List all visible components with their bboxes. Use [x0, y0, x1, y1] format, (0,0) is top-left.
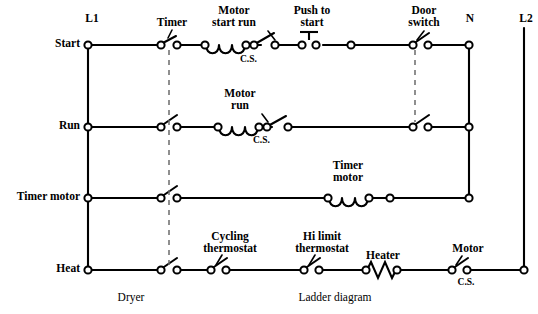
- motor-run-coil: [214, 123, 262, 135]
- caption-ladder-diagram: Ladder diagram: [298, 292, 371, 304]
- coil-terminal-right: [255, 123, 262, 130]
- contact-terminal-left: [250, 41, 257, 48]
- component-label-motor-cs-line1: Motor: [452, 243, 483, 255]
- door-switch-contact-run[interactable]: [409, 115, 431, 131]
- component-label-hi-limit-line2: thermostat: [295, 243, 349, 255]
- timer-motor-coil: [324, 194, 372, 206]
- contact-terminal-right: [424, 123, 431, 130]
- component-label-motor-cs-line2: C.S.: [458, 278, 475, 288]
- component-label-door-switch-line2: switch: [408, 17, 439, 29]
- component-label-cycling-thermostat-line2: thermostat: [203, 243, 257, 255]
- coil-loops: [206, 45, 245, 53]
- coil-loops: [329, 198, 368, 206]
- contact-terminal-left: [409, 41, 416, 48]
- ladder-diagram-canvas: [0, 0, 538, 314]
- ladder-diagram: L1 N L2 Start Run Timer motor Heat Timer…: [0, 0, 538, 314]
- heater-element: [362, 262, 400, 278]
- rail-n-node-start: [465, 41, 472, 48]
- contact-terminal-right: [173, 41, 180, 48]
- resistor-terminal-right: [393, 266, 400, 273]
- contact-terminal-left: [300, 266, 307, 273]
- rail-label-l2: L2: [519, 13, 532, 25]
- rail-l2-node-heat: [520, 266, 527, 273]
- junction-node-start: [347, 41, 354, 48]
- pushbutton-terminal-left: [298, 41, 305, 48]
- component-label-push-to-start-line2: start: [301, 17, 324, 29]
- contact-terminal-right: [173, 266, 180, 273]
- component-label-motor-run-line2: run: [231, 100, 249, 112]
- contact-terminal-right: [424, 41, 431, 48]
- contact-terminal-left: [157, 194, 164, 201]
- component-label-cs-start: C.S.: [240, 55, 257, 65]
- component-label-cs-run: C.S.: [253, 136, 270, 146]
- coil-terminal-right: [242, 41, 249, 48]
- contact-terminal-right: [173, 123, 180, 130]
- rung-label-timer-motor: Timer motor: [17, 191, 80, 203]
- rung-label-run: Run: [59, 120, 80, 132]
- component-label-heater: Heater: [366, 250, 400, 262]
- contact-terminal-right: [222, 266, 229, 273]
- caption-dryer: Dryer: [118, 292, 145, 304]
- coil-terminal-left: [324, 194, 331, 201]
- leader-timer: [168, 30, 172, 38]
- rail-n-node-run: [465, 123, 472, 130]
- rail-label-n: N: [466, 13, 474, 25]
- rung-heat: [84, 258, 527, 278]
- rail-l1-node-heat: [84, 266, 91, 273]
- contact-terminal-left: [448, 266, 455, 273]
- motor-cs-contact-run[interactable]: [263, 116, 291, 131]
- junction-node-timer-motor: [386, 194, 393, 201]
- contact-terminal-left: [409, 123, 416, 130]
- timer-contact-start[interactable]: [157, 36, 180, 49]
- contact-terminal-left: [157, 123, 164, 130]
- contact-terminal-right: [284, 123, 291, 130]
- rail-n-node-timer-motor: [465, 194, 472, 201]
- rail-label-l1: L1: [85, 13, 98, 25]
- coil-terminal-left: [201, 41, 208, 48]
- contact-terminal-left: [263, 123, 270, 130]
- contact-terminal-left: [157, 41, 164, 48]
- contact-terminal-left: [207, 266, 214, 273]
- push-to-start-button[interactable]: [298, 32, 319, 49]
- rail-l1-node-run: [84, 123, 91, 130]
- coil-loops: [219, 127, 258, 135]
- resistor-terminal-left: [362, 266, 369, 273]
- coil-terminal-left: [214, 123, 221, 130]
- contact-terminal-right: [271, 41, 278, 48]
- rail-l1-node-timer-motor: [84, 194, 91, 201]
- pushbutton-terminal-right: [312, 41, 319, 48]
- leader-cs-run: [262, 114, 268, 122]
- component-label-motor-start-run-line2: start run: [212, 17, 256, 29]
- rung-label-start: Start: [55, 38, 80, 50]
- contact-terminal-left: [157, 266, 164, 273]
- motor-cs-contact-start[interactable]: [250, 33, 278, 49]
- motor-start-run-coil: [201, 41, 249, 53]
- component-label-timer-motor-line2: motor: [333, 172, 363, 184]
- resistor-zigzag: [367, 262, 396, 278]
- contact-terminal-right: [315, 266, 322, 273]
- contact-terminal-right: [173, 194, 180, 201]
- rung-run: [84, 115, 472, 135]
- contact-terminal-right: [463, 266, 470, 273]
- coil-terminal-right: [365, 194, 372, 201]
- component-label-timer: Timer: [157, 17, 187, 29]
- rung-timer-motor: [84, 186, 472, 206]
- rung-label-heat: Heat: [56, 263, 80, 275]
- rail-l1-node-start: [84, 41, 91, 48]
